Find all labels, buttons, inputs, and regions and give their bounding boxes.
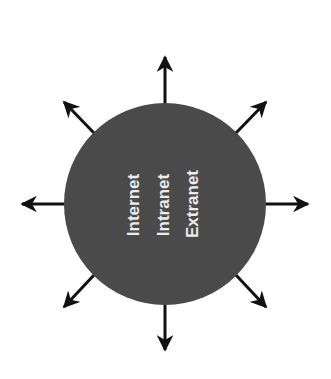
arrow-up-right-icon — [235, 102, 266, 134]
arrow-up-left-icon — [64, 102, 95, 134]
arrow-down-right-icon — [235, 274, 266, 307]
label-intranet: Intranet — [154, 173, 173, 236]
label-internet: Internet — [124, 173, 143, 236]
arrow-down-left-icon — [64, 274, 95, 307]
label-extranet: Extranet — [183, 170, 202, 238]
network-diagram: Internet Intranet Extranet — [0, 0, 331, 379]
labels: Internet Intranet Extranet — [124, 170, 202, 238]
